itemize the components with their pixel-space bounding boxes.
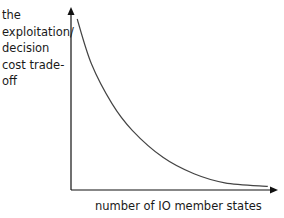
chart-canvas <box>0 0 284 218</box>
trade-off-curve <box>77 19 268 186</box>
y-axis-arrow-icon <box>68 7 75 15</box>
x-axis-arrow-icon <box>270 187 278 194</box>
x-axis-label: number of IO member states <box>95 199 255 213</box>
